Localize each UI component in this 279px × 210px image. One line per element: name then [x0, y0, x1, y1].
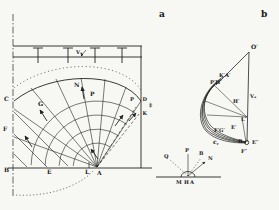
slip-line-figure: Vₐ [0, 0, 279, 210]
point-label-A: A [96, 169, 102, 176]
point-label-L: L [85, 168, 90, 175]
hodograph-velocity-label: Vₐ [249, 93, 257, 99]
point-label-K: K [143, 110, 148, 116]
diagram-a: Vₐ [3, 14, 152, 198]
point-label-G: G [38, 100, 43, 107]
strip-tick [33, 48, 43, 63]
point-label-H-prime: H′ [233, 98, 240, 104]
surcharge-strip: Vₐ [13, 46, 142, 63]
ray-label-P: P [185, 147, 189, 153]
detail-fan-rays [169, 154, 205, 176]
point-label-FG-prime: F′G′ [214, 127, 225, 133]
point-label-P-wall: P [130, 96, 134, 102]
ray-label-B: B [199, 150, 204, 156]
surcharge-velocity-label: Vₐ [75, 49, 83, 55]
ray-label-Q: Q [164, 153, 169, 159]
figure: Vₐ [0, 0, 279, 210]
point-label-D: D [143, 96, 148, 102]
point-label-B-hodograph: B [238, 138, 243, 144]
point-label-E-dblprime: E″ [252, 139, 259, 145]
point-label-P-top: P [90, 90, 95, 97]
point-label-B: B [4, 166, 9, 173]
strip-tick [117, 48, 127, 63]
hodograph-curve-bundle [200, 77, 246, 143]
point-label-L-prime: L′ [241, 116, 247, 122]
point-label-E-prime: E′ [231, 124, 237, 130]
strip-tick [63, 48, 73, 63]
point-label-H-detail: H [184, 179, 189, 185]
panel-label-a: a [159, 9, 165, 19]
diagram-c: Q P B N M H A [156, 147, 221, 185]
point-label-F: F [3, 125, 8, 132]
point-label-KA-prime: K′A′ [219, 72, 231, 78]
point-label-F-dblprime: F″ [241, 148, 248, 154]
point-label-A-detail: A [189, 179, 195, 185]
under-ground-dotted-curve [16, 170, 94, 195]
point-label-O-prime: O′ [251, 43, 258, 50]
point-label-N: N [74, 81, 80, 88]
panel-label-b: b [261, 9, 267, 19]
diagram-b: O′ Vₐ K′A′ P′H′ H′ L′ E′ F′G′ B E″ F″ [200, 43, 259, 154]
panel-label-c: c, [213, 138, 219, 145]
point-label-E: E [47, 168, 52, 175]
point-label-C: C [4, 95, 9, 102]
point-label-M-detail: M [176, 179, 182, 185]
ray-label-N: N [208, 155, 213, 161]
velocity-arrows [25, 87, 136, 159]
hodograph-vertical-line [247, 52, 249, 142]
point-label-PH-prime: P′H′ [210, 79, 222, 85]
strip-tick [90, 48, 100, 63]
wall-mark-label: ‡ [149, 101, 152, 108]
